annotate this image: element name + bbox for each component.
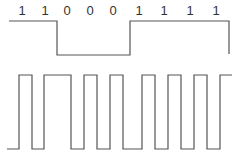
encoded-signal-waveform (7, 75, 232, 149)
waveform-diagram (0, 0, 235, 163)
data-signal-waveform (9, 21, 229, 55)
